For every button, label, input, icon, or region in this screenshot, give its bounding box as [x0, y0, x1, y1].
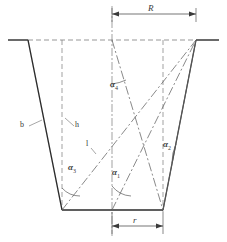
leader-b [29, 120, 42, 126]
dimension-R [112, 8, 196, 22]
label-R: R [148, 3, 154, 13]
label-b: b [20, 120, 24, 129]
diagonal-alpha1 [112, 40, 196, 210]
label-h: h [75, 120, 79, 129]
alpha2-subscript: 2 [168, 145, 171, 151]
label-alpha2: α2 [163, 139, 171, 151]
label-alpha3: α3 [68, 162, 76, 174]
diagonal-alpha4 [112, 40, 163, 210]
leader-lines [29, 118, 96, 154]
diagonal-l [62, 40, 196, 210]
dimension-r [112, 212, 163, 234]
alpha2-reference-line [163, 40, 196, 210]
left-side-b [28, 40, 62, 210]
alpha1-subscript: 1 [117, 173, 120, 179]
leader-l [91, 148, 96, 154]
leader-h [65, 118, 74, 126]
label-alpha4: α4 [110, 79, 118, 91]
alpha3-subscript: 3 [73, 168, 76, 174]
arc-alpha3 [62, 188, 80, 196]
label-alpha1: α1 [112, 167, 120, 179]
diagonal-lines [62, 40, 196, 210]
label-l: l [86, 139, 88, 148]
label-r: r [133, 215, 137, 225]
alpha4-subscript: 4 [115, 85, 118, 91]
technical-drawing-figure [0, 0, 227, 242]
